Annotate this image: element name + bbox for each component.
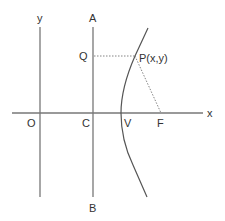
label-x: x <box>207 107 213 119</box>
label-p: P(x,y) <box>139 52 168 64</box>
diagram-canvas: y A Q P(x,y) x O C V F B <box>0 0 225 221</box>
label-o: O <box>27 117 36 129</box>
label-q: Q <box>79 50 88 62</box>
label-a: A <box>89 12 97 24</box>
label-v: V <box>124 117 132 129</box>
label-b: B <box>89 202 96 214</box>
label-f: F <box>157 117 164 129</box>
dotted-line-pf <box>135 56 161 113</box>
label-y: y <box>37 12 43 24</box>
label-c: C <box>82 117 90 129</box>
